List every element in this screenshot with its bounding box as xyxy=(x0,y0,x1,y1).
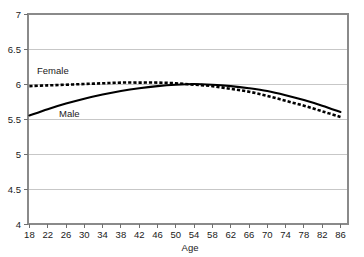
ytick-label-4: 4 xyxy=(16,219,21,230)
xtick-label-46: 46 xyxy=(152,229,163,240)
ytick-label-7: 7 xyxy=(16,9,21,20)
x-axis-labels: 18 22 26 30 34 38 42 46 50 54 58 62 66 7… xyxy=(24,229,346,240)
line-chart: 7 6.5 6 5.5 5 4.5 4 xyxy=(0,0,364,257)
xtick-label-18: 18 xyxy=(24,229,35,240)
xtick-label-58: 58 xyxy=(207,229,218,240)
xtick-label-38: 38 xyxy=(116,229,127,240)
xtick-label-74: 74 xyxy=(280,229,291,240)
ytick-label-6.5: 6.5 xyxy=(8,44,21,55)
xtick-label-42: 42 xyxy=(134,229,145,240)
xtick-label-34: 34 xyxy=(97,229,108,240)
ytick-label-5: 5 xyxy=(16,149,21,160)
x-axis-tickmarks xyxy=(29,224,340,228)
y-axis-labels: 7 6.5 6 5.5 5 4.5 4 xyxy=(8,9,21,230)
xtick-label-78: 78 xyxy=(299,229,310,240)
xtick-label-82: 82 xyxy=(317,229,328,240)
xtick-label-50: 50 xyxy=(171,229,182,240)
xtick-label-22: 22 xyxy=(42,229,53,240)
xtick-label-26: 26 xyxy=(61,229,72,240)
xtick-label-70: 70 xyxy=(262,229,273,240)
ytick-label-6: 6 xyxy=(16,79,21,90)
y-axis-tickmarks xyxy=(24,14,28,224)
x-axis-title: Age xyxy=(182,242,199,253)
xtick-label-86: 86 xyxy=(335,229,346,240)
ytick-label-5.5: 5.5 xyxy=(8,114,21,125)
xtick-label-30: 30 xyxy=(79,229,90,240)
xtick-label-54: 54 xyxy=(189,229,200,240)
chart-figure: 7 6.5 6 5.5 5 4.5 4 xyxy=(0,0,364,257)
xtick-label-62: 62 xyxy=(225,229,236,240)
series-label-male: Male xyxy=(59,108,80,119)
xtick-label-66: 66 xyxy=(244,229,255,240)
ytick-label-4.5: 4.5 xyxy=(8,184,21,195)
series-label-female: Female xyxy=(37,65,69,76)
